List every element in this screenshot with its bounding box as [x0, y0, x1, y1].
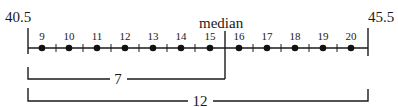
point-label: 14	[176, 30, 188, 42]
point-label: 12	[120, 30, 131, 42]
bracket-total-label: 12	[193, 93, 208, 107]
point-label: 11	[92, 30, 103, 42]
point-label: 10	[64, 30, 76, 42]
point-label: 19	[318, 30, 330, 42]
point-label: 13	[148, 30, 160, 42]
point-label: 18	[290, 30, 302, 42]
point-label: 15	[205, 30, 217, 42]
bracket-total: 12	[28, 88, 368, 107]
left-boundary-label: 40.5	[5, 9, 31, 25]
median-label: median	[199, 15, 244, 31]
point-label: 17	[262, 30, 274, 42]
right-boundary-label: 45.5	[368, 9, 394, 25]
bracket-lower-half-label: 7	[114, 71, 122, 87]
point-label: 20	[346, 30, 358, 42]
data-point: 9	[39, 30, 46, 51]
point-label: 9	[39, 30, 45, 42]
bracket-lower-half: 7	[28, 67, 225, 87]
point-label: 16	[234, 30, 246, 42]
number-line-diagram: 40.5 median 45.5 9 10 11 12 13 14 15 16 …	[0, 0, 398, 107]
